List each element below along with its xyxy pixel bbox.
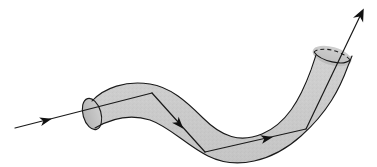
- figure-canvas: Curved tube with threaded directed path: [0, 0, 377, 167]
- tube-body-texture: [92, 55, 352, 163]
- tube-diagram-svg: [0, 0, 377, 167]
- tube-group: [79, 42, 354, 163]
- arrowhead-exit: [353, 6, 369, 23]
- arrowhead-entry: [39, 115, 53, 126]
